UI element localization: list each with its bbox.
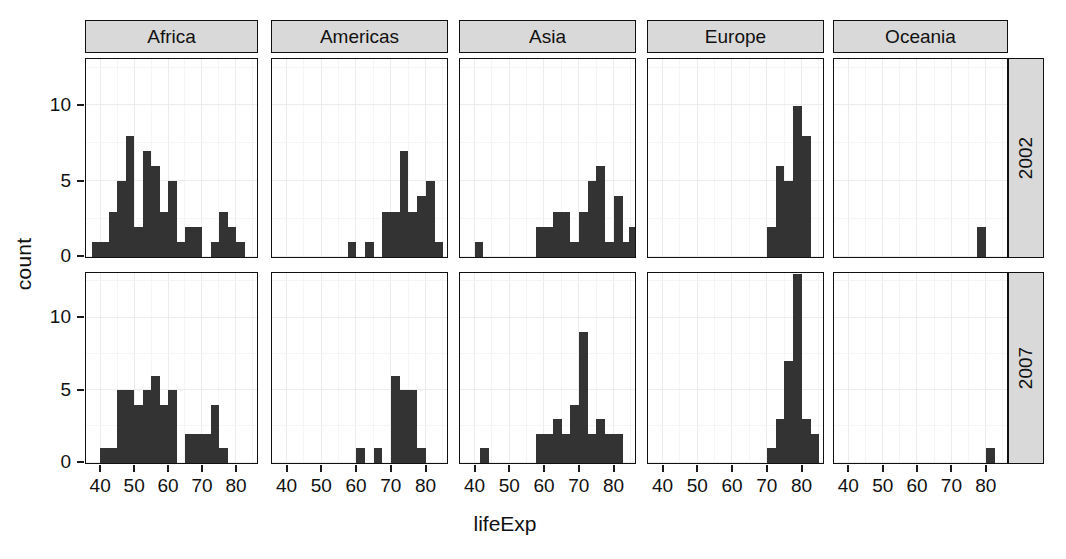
facet-strip-label: Oceania	[885, 26, 956, 48]
gridline-vertical	[235, 273, 236, 463]
x-tick-mark	[508, 465, 510, 472]
gridline-vertical-minor	[899, 273, 900, 463]
gridline-vertical-minor	[934, 59, 935, 257]
histogram-bar	[562, 212, 571, 257]
histogram-bar	[194, 434, 202, 463]
gridline-vertical	[509, 273, 510, 463]
x-tick-label: 60	[906, 475, 927, 497]
gridline-horizontal-minor	[834, 280, 1007, 281]
gridline-horizontal	[272, 317, 447, 318]
gridline-vertical-minor	[630, 273, 631, 463]
histogram-bar	[109, 212, 117, 257]
y-tick-mark	[77, 316, 84, 318]
histogram-bar	[168, 390, 176, 463]
facet-strip-asia: Asia	[459, 20, 636, 53]
gridline-horizontal	[272, 180, 447, 181]
panel-africa-2002	[85, 58, 258, 258]
gridline-vertical-minor	[899, 59, 900, 257]
x-tick-mark	[766, 465, 768, 472]
x-tick-mark	[286, 465, 288, 472]
histogram-bar	[435, 242, 444, 257]
histogram-bar	[228, 227, 236, 257]
histogram-bar	[811, 434, 820, 463]
gridline-vertical-minor	[818, 59, 819, 257]
gridline-horizontal-minor	[460, 425, 635, 426]
x-tick-label: 40	[90, 475, 111, 497]
histogram-bar	[348, 242, 357, 257]
gridline-vertical	[474, 59, 475, 257]
x-tick-label: 40	[652, 475, 673, 497]
gridline-vertical-minor	[491, 273, 492, 463]
gridline-horizontal-minor	[460, 67, 635, 68]
faceted-histogram-plot: count lifeExp AfricaAmericasAsiaEuropeOc…	[0, 0, 1066, 559]
x-tick-mark	[167, 465, 169, 472]
gridline-horizontal	[834, 462, 1007, 463]
x-tick-mark	[847, 465, 849, 472]
x-tick-mark	[578, 465, 580, 472]
histogram-bar	[475, 242, 484, 257]
panel-plot-area	[834, 273, 1007, 463]
x-tick-mark	[950, 465, 952, 472]
gridline-vertical-minor	[526, 59, 527, 257]
histogram-bar	[109, 448, 117, 463]
gridline-vertical	[916, 273, 917, 463]
gridline-vertical	[882, 273, 883, 463]
x-tick-label: 50	[872, 475, 893, 497]
histogram-bar	[211, 242, 219, 257]
x-tick-mark	[916, 465, 918, 472]
panel-plot-area	[648, 273, 823, 463]
x-tick-mark	[355, 465, 357, 472]
x-tick-mark	[235, 465, 237, 472]
histogram-bar	[391, 376, 400, 463]
histogram-bar	[605, 242, 614, 257]
histogram-bar	[100, 448, 108, 463]
gridline-horizontal-minor	[272, 425, 447, 426]
gridline-horizontal-minor	[834, 218, 1007, 219]
x-tick-mark	[731, 465, 733, 472]
gridline-vertical-minor	[679, 59, 680, 257]
panel-plot-area	[460, 273, 635, 463]
histogram-bar	[596, 419, 605, 463]
gridline-horizontal-minor	[834, 67, 1007, 68]
gridline-horizontal-minor	[460, 218, 635, 219]
histogram-bar	[219, 448, 227, 463]
histogram-bar	[802, 419, 811, 463]
gridline-horizontal-minor	[834, 353, 1007, 354]
gridline-horizontal-minor	[86, 67, 257, 68]
x-tick-label: 70	[191, 475, 212, 497]
gridline-horizontal-minor	[648, 67, 823, 68]
histogram-bar	[544, 227, 553, 257]
gridline-horizontal	[272, 389, 447, 390]
gridline-horizontal	[460, 389, 635, 390]
histogram-bar	[134, 405, 142, 463]
x-tick-label: 80	[791, 475, 812, 497]
panel-plot-area	[86, 273, 257, 463]
gridline-horizontal	[834, 180, 1007, 181]
gridline-horizontal	[834, 317, 1007, 318]
panel-plot-area	[86, 59, 257, 257]
panel-plot-area	[648, 59, 823, 257]
panel-africa-2007	[85, 272, 258, 464]
histogram-bar	[588, 434, 597, 463]
x-tick-label: 80	[225, 475, 246, 497]
histogram-bar	[417, 196, 426, 257]
histogram-bar	[185, 227, 193, 257]
x-tick-label: 70	[941, 475, 962, 497]
panel-plot-area	[834, 59, 1007, 257]
x-tick-label: 40	[276, 475, 297, 497]
gridline-vertical	[848, 273, 849, 463]
gridline-vertical-minor	[373, 59, 374, 257]
gridline-vertical-minor	[303, 59, 304, 257]
x-tick-mark	[696, 465, 698, 472]
x-tick-mark	[425, 465, 427, 472]
gridline-vertical	[951, 273, 952, 463]
gridline-vertical	[321, 59, 322, 257]
histogram-bar	[553, 419, 562, 463]
gridline-horizontal	[834, 104, 1007, 105]
gridline-vertical	[100, 59, 101, 257]
y-tick-label: 10	[19, 306, 71, 328]
gridline-vertical-minor	[1002, 59, 1003, 257]
y-tick-mark	[77, 255, 84, 257]
histogram-bar	[408, 390, 417, 463]
gridline-vertical-minor	[338, 273, 339, 463]
